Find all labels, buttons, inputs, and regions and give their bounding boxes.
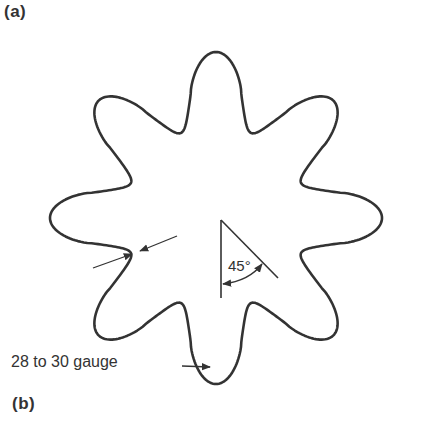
angle-indicator: 45°: [221, 220, 278, 298]
angle-label: 45°: [228, 257, 251, 274]
gauge-arrow: [182, 366, 210, 367]
star-diagram: 45°: [0, 0, 421, 446]
panel-label-b: (b): [12, 394, 35, 414]
thickness-indicator: [93, 236, 177, 268]
gauge-label: 28 to 30 gauge: [11, 353, 118, 371]
star-outline: [50, 52, 382, 384]
